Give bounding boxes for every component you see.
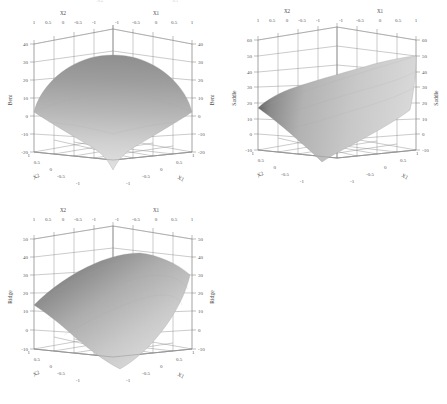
bent-axis-name-x2-top: X2 — [60, 10, 67, 16]
saddle-z-tick-right-4: 20 — [422, 101, 428, 106]
saddle-axis-name-x1-top: X1 — [377, 8, 384, 14]
saddle-x-tick-bot-0: -1 — [350, 179, 355, 184]
bent-x-tick-top-2: 0 — [155, 20, 158, 25]
ridge-zlabel-left: Ridge — [7, 290, 13, 304]
ridge-y-tick-top-0: 1 — [33, 217, 36, 222]
bent-y-tick-bot-4: -1 — [76, 181, 81, 186]
ridge-z-tick-left-1: 40 — [23, 255, 29, 260]
saddle-y-tick-bot-1: 0.5 — [258, 158, 265, 163]
ridge-ylabel-bottom: X2 — [32, 369, 41, 378]
bent-x-tick-bot-4: 1 — [192, 153, 195, 158]
surface-plot-bent: 1 0.5 0 -0.5 -1 -1 -0.5 0 0.5 1 X2 X1 40… — [0, 0, 223, 202]
saddle-z-tick-left-1: 50 — [247, 54, 253, 59]
ridge-z-tick-right-2: 30 — [198, 273, 204, 278]
bent-y-tick-top-1: 0.5 — [45, 20, 52, 25]
saddle-zlabel-left: Saddle — [231, 90, 237, 106]
saddle-y-tick-bot-0: 1 — [252, 151, 255, 156]
ridge-z-tick-left-3: 20 — [23, 291, 29, 296]
saddle-z-tick-right-0: 60 — [422, 38, 428, 43]
bent-y-tick-bot-2: 0 — [50, 167, 53, 172]
ridge-x-tick-bot-3: 0.5 — [176, 357, 183, 362]
bent-zlabel-right: Bent — [209, 94, 215, 105]
bent-z-tick-right-6: -20 — [198, 150, 205, 155]
saddle-x-tick-bot-3: 0.5 — [400, 158, 407, 163]
ridge-axis-name-x1-top: X1 — [153, 207, 160, 213]
saddle-y-tick-bot-2: 0 — [274, 165, 277, 170]
ridge-x-tick-top-0: -1 — [115, 217, 120, 222]
bent-y-tick-bot-1: 0.5 — [34, 160, 41, 165]
saddle-x-tick-bot-2: 0 — [384, 165, 387, 170]
ridge-x-tick-bot-4: 1 — [192, 350, 195, 355]
ridge-z-tick-left-5: 0 — [26, 328, 29, 333]
bent-y-tick-bot-3: -0.5 — [57, 174, 65, 179]
saddle-zlabel-right: Saddle — [433, 90, 439, 106]
figure-panel-grid: X2 X1 — [0, 0, 447, 404]
saddle-x-tick-top-0: -1 — [339, 18, 344, 23]
empty-panel-slot — [224, 201, 447, 403]
saddle-x-tick-bot-1: -0.5 — [366, 172, 374, 177]
bent-axis-name-x1-top: X1 — [153, 10, 160, 16]
bent-z-tick-right-5: -10 — [198, 132, 205, 137]
bent-x-tick-top-4: 1 — [191, 20, 194, 25]
ridge-y-tick-bot-3: -0.5 — [57, 371, 65, 376]
saddle-z-tick-right-6: 0 — [422, 132, 425, 137]
ridge-x-tick-bot-1: -0.5 — [142, 371, 150, 376]
bent-z-tick-right-1: 30 — [198, 60, 204, 65]
saddle-z-tick-right-2: 40 — [422, 70, 428, 75]
ridge-x-tick-top-4: 1 — [191, 217, 194, 222]
bent-ylabel-bottom: X2 — [32, 172, 41, 181]
bent-y-tick-bot-0: 1 — [28, 153, 31, 158]
ridge-z-tick-right-5: 0 — [198, 328, 201, 333]
ridge-z-tick-right-6: -10 — [198, 347, 205, 352]
ridge-y-tick-top-2: 0 — [62, 217, 65, 222]
bent-z-tick-right-3: 10 — [198, 96, 204, 101]
saddle-y-tick-top-1: 0.5 — [269, 18, 276, 23]
ridge-y-tick-bot-4: -1 — [76, 378, 81, 383]
surface-plot-saddle: 1 0.5 0 -0.5 -1 -1 -0.5 0 0.5 1 X2 X1 60… — [224, 0, 447, 202]
saddle-y-tick-bot-3: -0.5 — [281, 172, 289, 177]
ridge-x-tick-bot-0: -1 — [126, 378, 131, 383]
bent-z-tick-right-0: 40 — [198, 42, 204, 47]
saddle-z-tick-left-2: 40 — [247, 70, 253, 75]
saddle-z-tick-right-5: 10 — [422, 117, 428, 122]
ridge-y-tick-top-3: -0.5 — [74, 217, 82, 222]
saddle-z-tick-left-3: 30 — [247, 85, 253, 90]
saddle-z-tick-left-0: 60 — [247, 38, 253, 43]
bent-x-tick-top-3: 0.5 — [171, 20, 178, 25]
bent-z-tick-left-4: 0 — [26, 114, 29, 119]
ridge-y-tick-bot-2: 0 — [50, 364, 53, 369]
bent-y-tick-top-4: -1 — [92, 20, 97, 25]
bent-y-tick-top-2: 0 — [62, 20, 65, 25]
saddle-y-tick-top-2: 0 — [286, 18, 289, 23]
ridge-x-tick-top-2: 0 — [155, 217, 158, 222]
bent-z-tick-right-2: 20 — [198, 78, 204, 83]
ridge-z-tick-right-3: 20 — [198, 291, 204, 296]
bent-zlabel-left: Bent — [7, 94, 13, 105]
bent-z-tick-left-0: 40 — [23, 42, 29, 47]
saddle-y-tick-top-4: -1 — [316, 18, 321, 23]
saddle-y-tick-top-3: -0.5 — [298, 18, 306, 23]
saddle-z-tick-right-3: 30 — [422, 85, 428, 90]
bent-z-tick-left-5: -10 — [21, 132, 28, 137]
saddle-z-tick-right-1: 50 — [422, 54, 428, 59]
bent-z-tick-left-3: 10 — [23, 96, 29, 101]
saddle-y-tick-top-0: 1 — [257, 18, 260, 23]
ridge-xlabel-bottom: X1 — [177, 371, 186, 380]
ridge-z-tick-left-2: 30 — [23, 273, 29, 278]
saddle-axis-name-x2-top: X2 — [284, 8, 291, 14]
bent-z-tick-left-1: 30 — [23, 60, 29, 65]
surface-mesh-bent — [34, 55, 192, 170]
bent-x-tick-bot-0: -1 — [126, 181, 131, 186]
surface-plot-ridge: 1 0.5 0 -0.5 -1 -1 -0.5 0 0.5 1 X2 X1 50… — [0, 201, 223, 403]
saddle-y-tick-bot-4: -1 — [300, 179, 305, 184]
saddle-xlabel-bottom: X1 — [401, 172, 410, 181]
saddle-z-tick-left-6: 0 — [250, 132, 253, 137]
saddle-z-tick-left-5: 10 — [247, 117, 253, 122]
bent-y-tick-top-3: -0.5 — [74, 20, 82, 25]
ridge-y-tick-top-4: -1 — [92, 217, 97, 222]
bent-x-tick-bot-1: -0.5 — [142, 174, 150, 179]
ridge-z-tick-left-4: 10 — [23, 309, 29, 314]
saddle-x-tick-bot-4: 1 — [416, 151, 419, 156]
bent-x-tick-bot-2: 0 — [160, 167, 163, 172]
bent-x-tick-top-0: -1 — [115, 20, 120, 25]
